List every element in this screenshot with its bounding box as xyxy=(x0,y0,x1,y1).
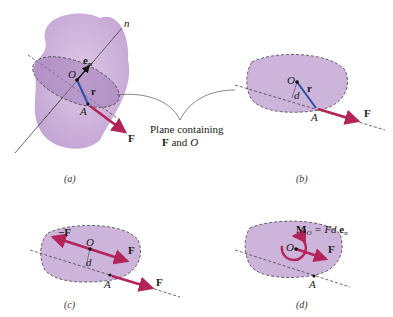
caption-a: (a) xyxy=(64,173,76,185)
callout-line2: F and O xyxy=(162,136,198,148)
caption-b: (b) xyxy=(296,173,308,185)
point-a-c xyxy=(108,273,111,276)
force-f-c xyxy=(112,276,152,288)
label-neg-f-c: −F xyxy=(58,226,71,238)
caption-d: (d) xyxy=(296,299,308,311)
label-f-d: F xyxy=(328,243,335,255)
panel-d: MO = Fd en O F A (d) xyxy=(235,221,350,311)
caption-c: (c) xyxy=(64,299,76,311)
panel-a: n en O r A F (a) xyxy=(15,14,135,185)
label-a-b: A xyxy=(310,111,318,123)
label-f-b: F xyxy=(364,107,371,119)
label-r: r xyxy=(91,85,96,97)
label-a-d: A xyxy=(308,278,316,290)
label-d-b: d xyxy=(294,89,300,101)
panel-c: −F O F d A F (c) xyxy=(30,225,180,311)
point-a xyxy=(86,102,89,105)
label-n: n xyxy=(124,17,130,29)
plane-c xyxy=(41,225,141,282)
moment-diagram: n en O r A F (a) Plane containing F and … xyxy=(0,0,393,317)
panel-b: O r d A F (b) xyxy=(235,54,385,185)
force-f-b xyxy=(318,109,358,121)
label-r-b: r xyxy=(307,82,312,94)
callout-line1: Plane containing xyxy=(150,123,224,135)
label-f-at-o-c: F xyxy=(128,244,135,256)
label-o-c: O xyxy=(86,236,94,248)
label-f-c: F xyxy=(156,276,163,288)
label-f: F xyxy=(128,132,135,144)
label-moment-equation: MO = Fd en xyxy=(296,223,348,237)
point-o-b xyxy=(295,80,299,84)
label-o-d: O xyxy=(286,241,294,253)
label-a: A xyxy=(79,105,87,117)
point-o-d xyxy=(294,247,298,251)
label-d-c: d xyxy=(86,256,92,268)
label-o-b: O xyxy=(287,74,295,86)
label-o: O xyxy=(68,68,76,80)
label-a-c: A xyxy=(103,278,111,290)
